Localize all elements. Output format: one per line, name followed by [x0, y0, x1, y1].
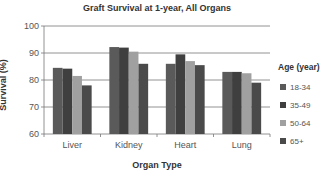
- y-tick-label: 60: [29, 129, 39, 139]
- legend-swatch: [280, 120, 286, 126]
- bar: [222, 72, 232, 134]
- bar: [242, 73, 252, 134]
- bar: [232, 72, 242, 134]
- x-category-label: Heart: [174, 140, 197, 150]
- legend-label: 50-64: [290, 119, 310, 128]
- bar: [251, 83, 261, 134]
- bar: [138, 64, 148, 134]
- bar: [53, 68, 63, 134]
- x-axis-label: Organ Type: [44, 160, 270, 170]
- legend-swatch: [280, 138, 286, 144]
- legend-label: 35-49: [290, 101, 310, 110]
- legend-title: Age (year): [278, 62, 320, 72]
- bar: [109, 47, 119, 134]
- legend-swatch: [280, 102, 286, 108]
- legend-label: 65+: [290, 137, 304, 146]
- bar: [119, 48, 129, 134]
- bar: [72, 76, 82, 134]
- x-category-label: Kidney: [115, 140, 143, 150]
- x-category-label: Liver: [62, 140, 82, 150]
- y-tick-label: 90: [29, 48, 39, 58]
- bar: [185, 61, 195, 134]
- legend-item: 65+: [278, 132, 320, 150]
- y-tick-label: 80: [29, 75, 39, 85]
- y-tick-label: 70: [29, 102, 39, 112]
- bar: [166, 64, 176, 134]
- y-tick-label: 100: [24, 21, 39, 31]
- legend-label: 18-34: [290, 83, 310, 92]
- x-category-label: Lung: [232, 140, 252, 150]
- legend-swatch: [280, 84, 286, 90]
- legend-item: 18-34: [278, 78, 320, 96]
- bar: [176, 54, 186, 134]
- bar: [82, 85, 92, 134]
- legend: Age (year) 18-3435-4950-6465+: [278, 62, 320, 150]
- legend-item: 50-64: [278, 114, 320, 132]
- bar: [195, 65, 205, 134]
- legend-item: 35-49: [278, 96, 320, 114]
- bar: [129, 52, 139, 134]
- bar: [63, 69, 73, 134]
